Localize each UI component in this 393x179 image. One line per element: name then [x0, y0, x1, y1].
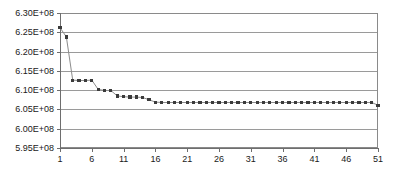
data-point-marker: [173, 101, 176, 104]
data-point-marker: [141, 96, 144, 99]
data-point-marker: [77, 79, 80, 82]
data-point-marker: [319, 101, 322, 104]
data-point-marker: [192, 101, 195, 104]
data-point-marker: [300, 101, 303, 104]
data-point-marker: [306, 101, 309, 104]
data-point-marker: [103, 89, 106, 92]
data-point-marker: [262, 101, 265, 104]
data-point-marker: [71, 79, 74, 82]
data-point-marker: [116, 94, 119, 97]
data-point-marker: [167, 101, 170, 104]
data-point-marker: [345, 101, 348, 104]
data-point-marker: [249, 101, 252, 104]
data-point-marker: [135, 95, 138, 98]
data-point-marker: [224, 101, 227, 104]
line-chart: 5.95E+086.00E+086.05E+086.10E+086.15E+08…: [0, 0, 393, 179]
data-point-marker: [160, 101, 163, 104]
data-point-marker: [122, 95, 125, 98]
data-point-marker: [217, 101, 220, 104]
data-point-marker: [97, 88, 100, 91]
series-line: [60, 28, 378, 106]
data-point-marker: [275, 101, 278, 104]
chart-canvas: [0, 0, 393, 179]
data-point-marker: [211, 101, 214, 104]
data-point-marker: [154, 101, 157, 104]
data-point-marker: [364, 101, 367, 104]
data-point-marker: [268, 101, 271, 104]
data-point-marker: [256, 101, 259, 104]
data-point-marker: [281, 101, 284, 104]
data-point-marker: [109, 89, 112, 92]
data-point-marker: [58, 26, 61, 29]
data-point-marker: [230, 101, 233, 104]
data-point-marker: [236, 101, 239, 104]
data-point-marker: [313, 101, 316, 104]
data-point-marker: [332, 101, 335, 104]
data-point-marker: [287, 101, 290, 104]
data-point-marker: [186, 101, 189, 104]
data-point-marker: [370, 101, 373, 104]
data-point-marker: [338, 101, 341, 104]
data-point-marker: [294, 101, 297, 104]
data-point-marker: [65, 35, 68, 38]
data-point-marker: [351, 101, 354, 104]
data-point-marker: [205, 101, 208, 104]
data-point-marker: [326, 101, 329, 104]
data-point-marker: [376, 104, 379, 107]
data-point-marker: [90, 79, 93, 82]
data-point-marker: [179, 101, 182, 104]
data-point-marker: [357, 101, 360, 104]
chart-screenshot: 5.95E+086.00E+086.05E+086.10E+086.15E+08…: [0, 0, 393, 179]
data-point-marker: [243, 101, 246, 104]
data-point-marker: [147, 98, 150, 101]
data-point-marker: [198, 101, 201, 104]
plot-border: [61, 14, 378, 148]
data-point-marker: [128, 95, 131, 98]
data-point-marker: [84, 79, 87, 82]
